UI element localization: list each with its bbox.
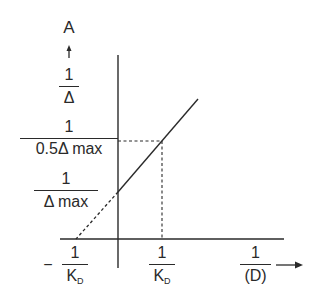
x-axis-label-fraction: 1 (D) — [240, 244, 271, 285]
y-axis-label-fraction: 1 Δ — [59, 66, 79, 107]
fraction-bar — [34, 190, 98, 191]
y-axis-label-denominator: Δ — [64, 89, 75, 107]
fraction-bar — [149, 264, 175, 265]
kd-subscript: D — [77, 276, 84, 286]
x-marker-negative-sign: − — [42, 257, 54, 273]
x-marker-negative-numerator: 1 — [71, 244, 80, 262]
up-arrow-icon — [67, 45, 72, 58]
x-marker-denominator: KD — [153, 267, 170, 290]
y-marker-max-denominator: Δ max — [44, 193, 88, 211]
y-axis-label-numerator: 1 — [65, 66, 74, 84]
x-axis-label-numerator: 1 — [251, 244, 260, 262]
y-marker-max-numerator: 1 — [62, 170, 71, 188]
y-axis-title: A — [61, 20, 77, 36]
right-arrow-icon — [276, 262, 303, 269]
y-marker-half-max-numerator: 1 — [65, 118, 74, 136]
x-marker-negative-inverse-kd: 1 KD — [62, 244, 88, 290]
x-marker-negative-denominator: KD — [66, 267, 83, 290]
fraction-bar — [20, 138, 118, 139]
y-marker-max: 1 Δ max — [34, 170, 98, 211]
fraction-bar — [240, 264, 271, 265]
kd-symbol: K — [66, 267, 77, 284]
fraction-bar — [59, 86, 79, 87]
y-marker-half-max: 1 0.5Δ max — [20, 118, 118, 158]
kd-symbol: K — [153, 267, 164, 284]
x-axis-label-denominator: (D) — [244, 267, 266, 285]
x-marker-numerator: 1 — [158, 244, 167, 262]
fraction-bar — [62, 264, 88, 265]
x-marker-inverse-kd: 1 KD — [149, 244, 175, 290]
kd-subscript: D — [164, 276, 171, 286]
regression-line — [118, 99, 198, 192]
y-marker-half-max-denominator: 0.5Δ max — [36, 140, 103, 158]
